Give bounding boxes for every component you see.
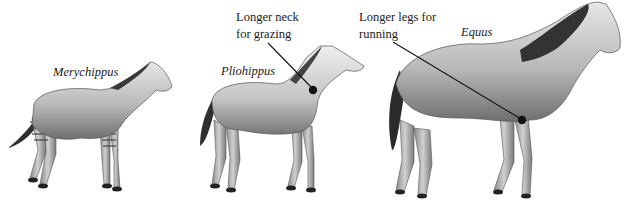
annotation-neck-line1: Longer neck [236, 9, 299, 26]
merychippus-illustration [8, 62, 172, 192]
annotation-legs-line2: running [359, 26, 398, 43]
legs-pointer-dot [518, 116, 526, 124]
neck-pointer-dot [309, 86, 317, 94]
equus-illustration [389, 2, 620, 199]
horse-illustrations [0, 0, 632, 207]
annotation-legs-line1: Longer legs for [359, 9, 436, 26]
label-pliohippus: Pliohippus [221, 63, 275, 80]
horse-evolution-diagram: Merychippus Pliohippus Equus Longer neck… [0, 0, 632, 207]
label-merychippus: Merychippus [53, 64, 118, 81]
annotation-neck-line2: for grazing [236, 26, 291, 43]
label-equus: Equus [461, 24, 492, 41]
